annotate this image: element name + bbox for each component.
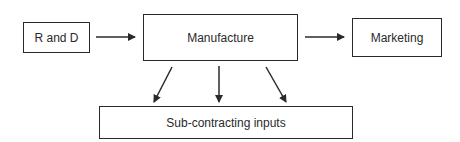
- node-marketing: Marketing: [352, 18, 442, 57]
- node-label-sub-contracting-inputs: Sub-contracting inputs: [166, 116, 285, 130]
- arrow-manufacture-to-subcontracting-right: [266, 67, 286, 102]
- node-label-r-and-d: R and D: [34, 31, 78, 45]
- node-sub-contracting-inputs: Sub-contracting inputs: [99, 106, 353, 139]
- node-manufacture: Manufacture: [143, 14, 298, 61]
- node-label-marketing: Marketing: [371, 31, 424, 45]
- arrow-manufacture-to-subcontracting-left: [154, 67, 172, 102]
- node-label-manufacture: Manufacture: [187, 31, 254, 45]
- node-r-and-d: R and D: [23, 22, 90, 53]
